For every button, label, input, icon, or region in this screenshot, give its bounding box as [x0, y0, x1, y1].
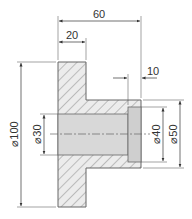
svg-text:10: 10	[147, 65, 159, 77]
dim-counterbore-diameter: ⌀40	[141, 107, 167, 162]
dim-counterbore-depth: 10	[113, 65, 159, 105]
dim-bore-diameter: ⌀30	[31, 114, 58, 155]
svg-text:⌀40: ⌀40	[150, 124, 162, 143]
svg-text:⌀100: ⌀100	[8, 121, 20, 146]
svg-text:60: 60	[93, 8, 105, 20]
dim-flange-thickness: 20	[59, 29, 86, 60]
counterbore	[128, 107, 141, 162]
bore	[58, 114, 128, 155]
svg-text:20: 20	[66, 29, 78, 41]
bushing-drawing: 60 20 10 ⌀100 ⌀30 ⌀40 ⌀50	[0, 0, 192, 219]
svg-text:⌀30: ⌀30	[31, 124, 43, 143]
svg-text:⌀50: ⌀50	[167, 124, 179, 143]
